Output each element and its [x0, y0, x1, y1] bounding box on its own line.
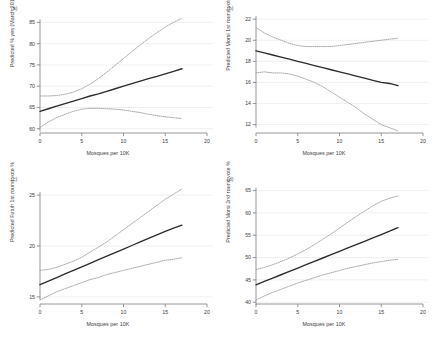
svg-text:10: 10 [337, 309, 343, 315]
svg-text:85: 85 [29, 19, 35, 25]
svg-text:22: 22 [245, 16, 251, 22]
svg-text:5: 5 [296, 138, 299, 144]
svg-text:0: 0 [255, 309, 258, 315]
svg-text:15: 15 [162, 309, 168, 315]
svg-text:60: 60 [245, 210, 251, 216]
svg-text:40: 40 [245, 299, 251, 305]
panel-a: (a) Predicted % yes (March 2011) 6065707… [0, 0, 216, 171]
svg-text:0: 0 [39, 309, 42, 315]
svg-text:55: 55 [245, 232, 251, 238]
svg-text:20: 20 [245, 37, 251, 43]
svg-text:50: 50 [245, 254, 251, 260]
svg-text:20: 20 [29, 243, 35, 249]
svg-text:20: 20 [420, 138, 426, 144]
svg-text:70: 70 [29, 83, 35, 89]
panel-c-xlabel: Mosques per 10K [0, 321, 216, 327]
svg-text:65: 65 [29, 104, 35, 110]
svg-text:75: 75 [29, 62, 35, 68]
panel-d-plot: 40455055606505101520 [216, 171, 432, 342]
svg-text:15: 15 [29, 294, 35, 300]
svg-text:45: 45 [245, 277, 251, 283]
panel-c-plot: 15202505101520 [0, 171, 216, 342]
svg-text:0: 0 [39, 138, 42, 144]
svg-text:12: 12 [245, 121, 251, 127]
svg-text:18: 18 [245, 58, 251, 64]
panel-b-plot: 12141618202205101520 [216, 0, 432, 171]
svg-text:25: 25 [29, 192, 35, 198]
panel-c: (c) Predicted Futuh 1st round vote % 152… [0, 171, 216, 342]
svg-text:10: 10 [121, 138, 127, 144]
svg-text:80: 80 [29, 41, 35, 47]
svg-text:15: 15 [162, 138, 168, 144]
svg-text:5: 5 [80, 309, 83, 315]
svg-text:20: 20 [420, 309, 426, 315]
svg-text:14: 14 [245, 100, 251, 106]
svg-text:10: 10 [337, 138, 343, 144]
svg-text:20: 20 [204, 309, 210, 315]
svg-text:15: 15 [378, 138, 384, 144]
figure-panel-grid: (a) Predicted % yes (March 2011) 6065707… [0, 0, 433, 342]
svg-text:5: 5 [296, 309, 299, 315]
panel-b: (b) Predicted Morsi 1st round vote % 121… [216, 0, 432, 171]
panel-d: (d) Predicted Morsi 2nd round vote % 404… [216, 171, 432, 342]
panel-d-xlabel: Mosques per 10K [216, 321, 432, 327]
panel-a-xlabel: Mosques per 10K [0, 150, 216, 156]
svg-text:0: 0 [255, 138, 258, 144]
svg-text:5: 5 [80, 138, 83, 144]
panel-b-xlabel: Mosques per 10K [216, 150, 432, 156]
svg-text:65: 65 [245, 187, 251, 193]
svg-text:16: 16 [245, 79, 251, 85]
panel-a-plot: 60657075808505101520 [0, 0, 216, 171]
svg-text:15: 15 [378, 309, 384, 315]
svg-text:10: 10 [121, 309, 127, 315]
svg-text:20: 20 [204, 138, 210, 144]
svg-text:60: 60 [29, 126, 35, 132]
